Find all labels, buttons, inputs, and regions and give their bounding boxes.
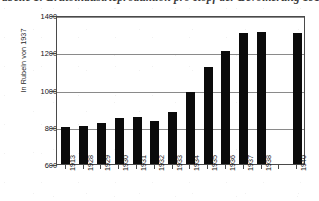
x-axis-tick-mark xyxy=(243,165,244,169)
x-axis-tick-mark xyxy=(261,165,262,169)
x-axis-tick-label: 1935 xyxy=(210,145,219,171)
x-axis-tick-mark xyxy=(278,165,279,169)
x-axis-tick-mark xyxy=(189,165,190,169)
x-axis-tick-label: 1932 xyxy=(157,145,166,171)
x-axis-tick-mark xyxy=(136,165,137,169)
plot-area xyxy=(56,16,305,165)
x-axis-tick-label: 1938 xyxy=(264,145,273,171)
x-axis-tick-label: 1928 xyxy=(86,145,95,171)
gridline xyxy=(57,17,304,18)
x-axis-tick-mark xyxy=(225,165,226,169)
gridline xyxy=(57,129,304,130)
x-axis-tick-mark xyxy=(207,165,208,169)
x-axis-tick-label: 1933 xyxy=(175,145,184,171)
y-axis-tick-mark xyxy=(50,165,57,166)
x-axis-tick-label: 1937 xyxy=(246,145,255,171)
x-axis-tick-label: 1913 xyxy=(68,145,77,171)
x-axis-tick-label: 1936 xyxy=(228,145,237,171)
x-axis-tick-mark xyxy=(83,165,84,169)
x-axis-tick-mark xyxy=(172,165,173,169)
x-axis-tick-label: 1929 xyxy=(103,145,112,171)
gridline xyxy=(57,92,304,93)
x-axis-tick-label: 1930 xyxy=(121,145,130,171)
gridline xyxy=(57,54,304,55)
x-axis-tick-mark xyxy=(65,165,66,169)
bar-chart: In Rubeln von 1937 600800100012001400 19… xyxy=(0,0,319,201)
x-axis-tick-mark xyxy=(118,165,119,169)
x-axis-tick-mark xyxy=(100,165,101,169)
x-axis-tick-label: 1934 xyxy=(192,145,201,171)
x-axis-tick-label: 1931 xyxy=(139,145,148,171)
x-axis-tick-mark xyxy=(154,165,155,169)
x-axis-tick-label: 1940 xyxy=(299,145,308,171)
x-axis-tick-mark xyxy=(296,165,297,169)
